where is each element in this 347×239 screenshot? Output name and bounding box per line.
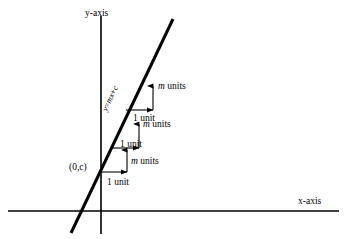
rise-label-3: m units [158, 82, 186, 92]
rise-symbol-1: m [131, 156, 138, 166]
x-axis-label: x-axis [298, 197, 321, 207]
rise-units-3: units [167, 81, 185, 91]
run-label-1: 1 unit [107, 178, 129, 188]
y-intercept-label: (0,c) [69, 163, 87, 173]
rise-units-2: units [152, 119, 170, 129]
diagram-canvas [0, 0, 347, 239]
rise-symbol-2: m [143, 119, 150, 129]
line-graph-figure: y-axis x-axis y=mx+c (0,c) m units 1 uni… [0, 0, 347, 239]
rise-units-1: units [140, 156, 158, 166]
rise-label-1: m units [131, 157, 159, 167]
run-label-2: 1 unit [120, 140, 142, 150]
rise-symbol-3: m [158, 81, 165, 91]
y-axis-label: y-axis [85, 9, 108, 19]
rise-label-2: m units [143, 120, 171, 130]
